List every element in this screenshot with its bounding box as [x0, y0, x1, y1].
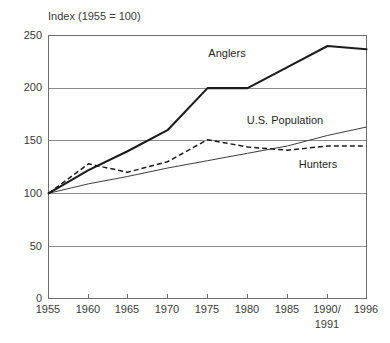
xtick-label-1990: 1990/	[313, 303, 341, 315]
xtick-label-1996: 1996	[354, 303, 378, 315]
ytick-label-200: 200	[24, 81, 42, 93]
chart-container: Index (1955 = 100) 250 200 150 100 50 0 …	[0, 0, 390, 343]
xtick-label-1965: 1965	[115, 303, 139, 315]
xtick-label-1985: 1985	[275, 303, 299, 315]
xtick-label-1960: 1960	[76, 303, 100, 315]
series-label-hunters: Hunters	[299, 158, 338, 170]
series-label-anglers: Anglers	[208, 47, 246, 59]
xtick-label-1975: 1975	[195, 303, 219, 315]
ytick-label-50: 50	[30, 240, 42, 252]
chart-title: Index (1955 = 100)	[48, 10, 141, 22]
xtick-label-1955: 1955	[36, 303, 60, 315]
xtick-label-1991: 1991	[315, 318, 339, 330]
line-chart: Index (1955 = 100) 250 200 150 100 50 0 …	[0, 0, 390, 343]
xtick-label-1980: 1980	[235, 303, 259, 315]
ytick-label-250: 250	[24, 29, 42, 41]
xtick-label-1970: 1970	[155, 303, 179, 315]
chart-background	[0, 0, 390, 343]
ytick-label-100: 100	[24, 187, 42, 199]
series-label-us-population: U.S. Population	[247, 114, 323, 126]
ytick-label-150: 150	[24, 134, 42, 146]
